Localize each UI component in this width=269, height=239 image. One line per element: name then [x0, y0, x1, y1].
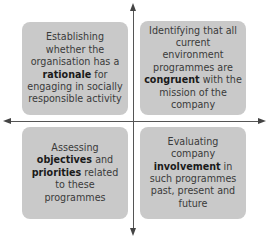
quadrant-top-left: Establishing whether the organisation ha…	[22, 22, 128, 115]
keyword: congruent	[144, 74, 199, 85]
quadrant-bottom-right: Evaluating company involvement in such p…	[140, 127, 246, 219]
keyword: priorities	[32, 167, 82, 178]
horizontal-axis	[8, 121, 262, 122]
text: Identifying that all current environment…	[149, 25, 237, 73]
quadrant-bottom-left: Assessing objectives and priorities rela…	[22, 127, 128, 219]
arrow-down-icon	[130, 228, 136, 236]
text: Establishing whether the organisation ha…	[31, 31, 120, 67]
text: and	[92, 154, 113, 165]
arrow-up-icon	[130, 3, 136, 11]
keyword: objectives	[37, 154, 92, 165]
vertical-axis	[133, 8, 134, 232]
quadrant-top-right: Identifying that all current environment…	[140, 21, 246, 115]
arrow-left-icon	[3, 118, 11, 124]
text: Evaluating company	[168, 136, 219, 159]
keyword: involvement	[154, 161, 221, 172]
arrow-right-icon	[258, 118, 266, 124]
keyword: rationale	[42, 69, 91, 80]
text: Assessing	[51, 142, 98, 153]
